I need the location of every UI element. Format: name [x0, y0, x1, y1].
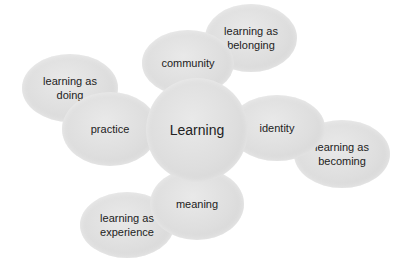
node-label: learning as becoming — [315, 140, 369, 168]
node-label: learning as belonging — [224, 24, 278, 52]
node-practice: practice — [62, 92, 158, 166]
node-label: learning as experience — [100, 211, 154, 239]
node-label: meaning — [176, 197, 218, 211]
node-label: community — [161, 56, 214, 70]
node-learning-center: Learning — [146, 78, 248, 182]
learning-concept-diagram: learning as doing learning as belonging … — [0, 0, 411, 268]
center-label: Learning — [170, 123, 225, 137]
node-label: identity — [260, 121, 295, 135]
node-label: practice — [91, 122, 130, 136]
